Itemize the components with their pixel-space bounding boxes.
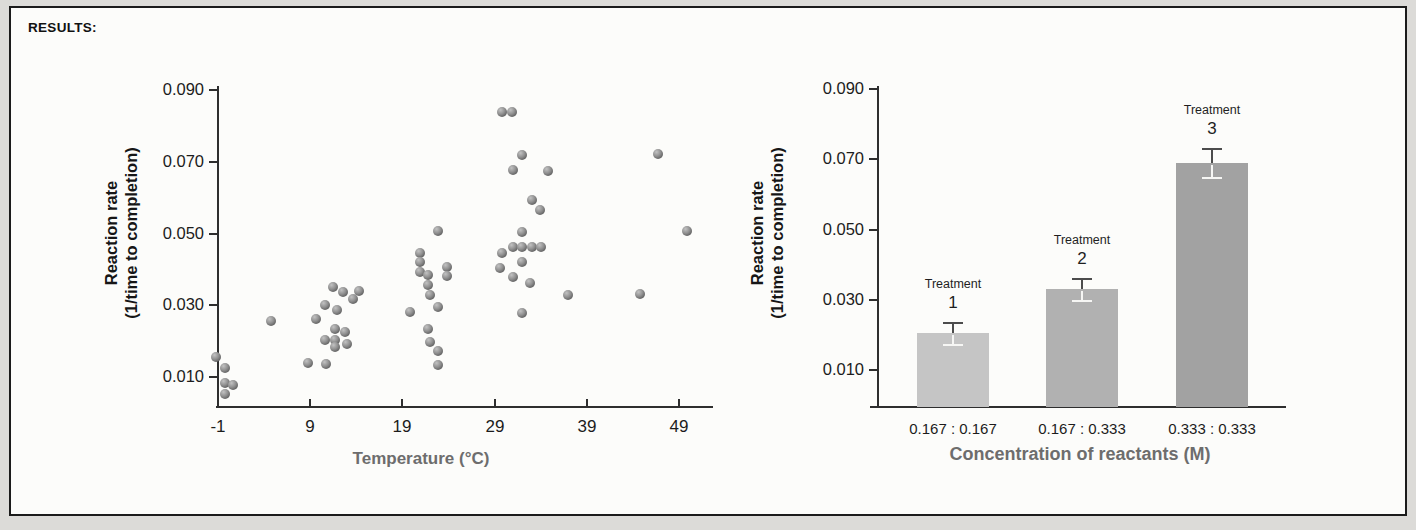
scatter-point: [497, 107, 507, 117]
scatter-point: [433, 346, 443, 356]
scatter-y-tick-label: 0.050: [136, 224, 204, 243]
scatter-point: [211, 352, 221, 362]
treatment-word: Treatment: [1022, 232, 1142, 248]
bar-y-tick: [869, 88, 877, 90]
scatter-x-tick-label: 39: [557, 417, 617, 437]
bar-y-tick: [869, 229, 877, 231]
scatter-point: [328, 282, 338, 292]
bar-treatment-label: Treatment1: [893, 276, 1013, 313]
scatter-point: [433, 302, 443, 312]
scatter-point: [220, 389, 230, 399]
scatter-x-tick-label: 19: [372, 417, 432, 437]
scatter-point: [635, 289, 645, 299]
scatter-point: [433, 226, 443, 236]
scatter-point: [517, 257, 527, 267]
scatter-point: [330, 324, 340, 334]
scatter-y-tick-label: 0.030: [136, 295, 204, 314]
treatment-word: Treatment: [1152, 102, 1272, 118]
bar-y-tick-label: 0.090: [796, 79, 864, 98]
scatter-point: [517, 150, 527, 160]
scatter-point: [342, 339, 352, 349]
error-bar-lower-line: [952, 335, 954, 344]
scatter-point: [563, 290, 573, 300]
error-bar-upper-cap: [943, 322, 963, 324]
error-bar-lower-cap: [943, 344, 963, 346]
scatter-point: [423, 270, 433, 280]
scatter-y-tick: [209, 161, 217, 163]
scatter-point: [425, 290, 435, 300]
scatter-y-tick-label: 0.010: [136, 367, 204, 386]
charts-layer: 0.0100.0300.0500.0700.090-19192939490.01…: [0, 0, 1416, 530]
error-bar-lower-cap: [1072, 300, 1092, 302]
scatter-point: [433, 360, 443, 370]
scatter-point: [266, 316, 276, 326]
scatter-y-tick: [209, 304, 217, 306]
error-bar-lower-line: [1211, 165, 1213, 177]
scatter-x-tick: [494, 399, 496, 406]
scatter-x-tick-label: -1: [188, 417, 248, 437]
scatter-point: [495, 263, 505, 273]
scatter-point: [338, 287, 348, 297]
scatter-point: [508, 165, 518, 175]
bar-y-tick: [869, 299, 877, 301]
treatment-number: 1: [893, 292, 1013, 313]
bar-y-tick: [869, 369, 877, 371]
error-bar-lower-cap: [1202, 177, 1222, 179]
scatter-point: [536, 242, 546, 252]
scatter-point: [330, 342, 340, 352]
scatter-point: [348, 294, 358, 304]
scatter-point: [653, 149, 663, 159]
page: RESULTS: Reaction rate (1/time to comple…: [0, 0, 1416, 530]
treatment-word: Treatment: [893, 276, 1013, 292]
treatment-number: 3: [1152, 118, 1272, 139]
scatter-point: [517, 242, 527, 252]
scatter-point: [543, 166, 553, 176]
scatter-point: [497, 248, 507, 258]
bar-y-tick-label: 0.050: [796, 220, 864, 239]
scatter-point: [682, 226, 692, 236]
error-bar-upper-cap: [1202, 148, 1222, 150]
bar-category-label: 0.167 : 0.333: [1012, 420, 1152, 437]
scatter-point: [425, 337, 435, 347]
scatter-point: [423, 324, 433, 334]
scatter-point: [332, 305, 342, 315]
scatter-x-tick-label: 49: [649, 417, 709, 437]
treatment-number: 2: [1022, 248, 1142, 269]
scatter-point: [220, 363, 230, 373]
scatter-point: [507, 107, 517, 117]
bar-y-tick-label: 0.030: [796, 290, 864, 309]
error-bar-upper-cap: [1072, 278, 1092, 280]
scatter-x-tick: [309, 399, 311, 406]
scatter-point: [415, 257, 425, 267]
bar-y-tick: [869, 158, 877, 160]
scatter-point: [423, 280, 433, 290]
scatter-y-tick-label: 0.090: [136, 80, 204, 99]
bar-category-label: 0.167 : 0.167: [883, 420, 1023, 437]
scatter-point: [405, 307, 415, 317]
scatter-point: [517, 308, 527, 318]
scatter-point: [303, 358, 313, 368]
error-bar-upper-line: [1081, 279, 1083, 290]
scatter-x-tick-label: 9: [280, 417, 340, 437]
scatter-point: [535, 205, 545, 215]
scatter-point: [228, 380, 238, 390]
bar-treatment-label: Treatment2: [1022, 232, 1142, 269]
scatter-point: [525, 278, 535, 288]
scatter-point: [321, 359, 331, 369]
error-bar-lower-line: [1081, 291, 1083, 300]
scatter-point: [517, 227, 527, 237]
scatter-point: [508, 272, 518, 282]
scatter-x-tick-label: 29: [465, 417, 525, 437]
bar-y-tick-label: 0.070: [796, 149, 864, 168]
error-bar-upper-line: [952, 323, 954, 334]
scatter-y-tick-label: 0.070: [136, 152, 204, 171]
bar-category-label: 0.333 : 0.333: [1142, 420, 1282, 437]
bar-treatment-label: Treatment3: [1152, 102, 1272, 139]
scatter-y-tick: [209, 89, 217, 91]
scatter-x-axis-line: [216, 406, 713, 408]
bar-column: [1176, 163, 1248, 407]
scatter-point: [320, 335, 330, 345]
scatter-point: [340, 327, 350, 337]
bar-y-tick-label: 0.010: [796, 360, 864, 379]
scatter-point: [442, 271, 452, 281]
